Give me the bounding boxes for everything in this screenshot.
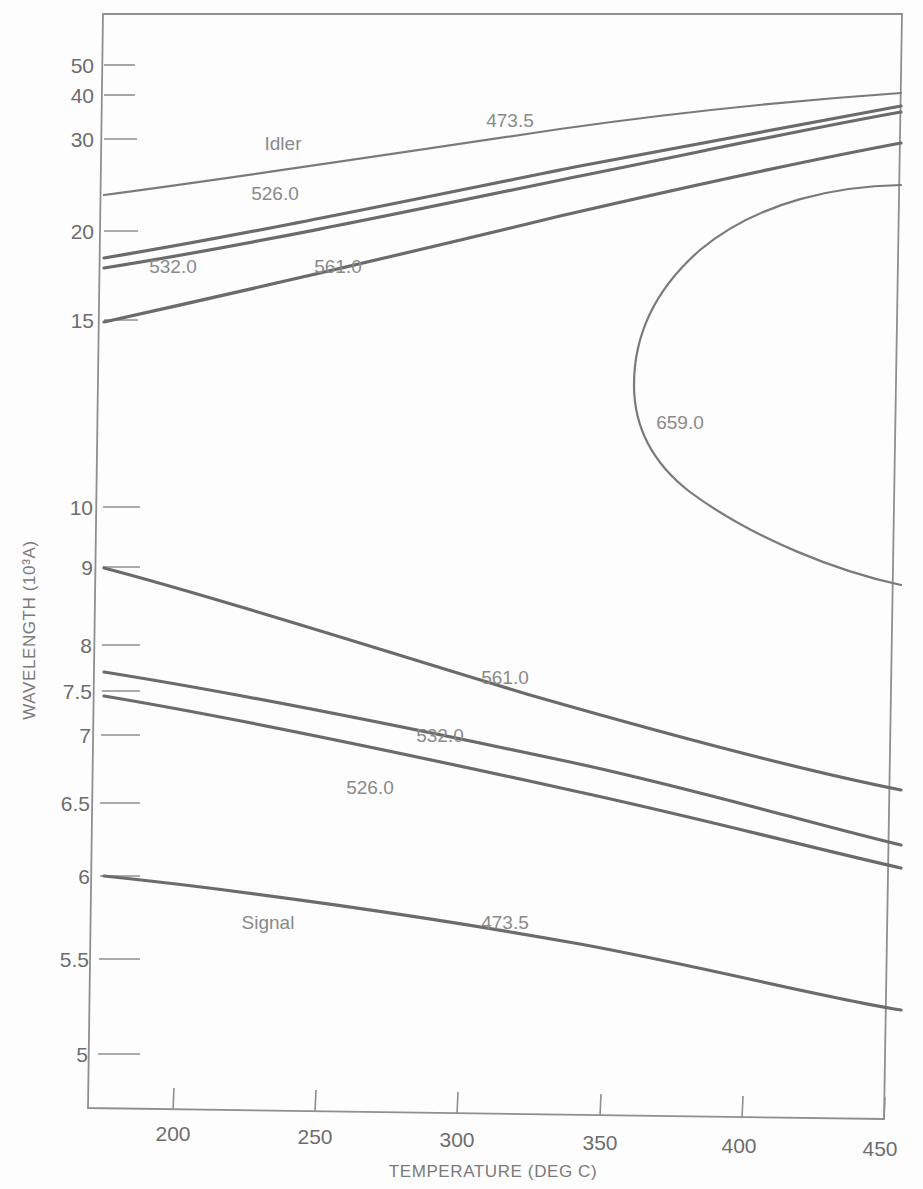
x-axis-title: TEMPERATURE (DEG C) <box>389 1162 597 1181</box>
y-axis-title: WAVELENGTH (10³A) <box>20 540 39 719</box>
curve-label-526-0-signal: 526.0 <box>346 777 394 798</box>
curve-signal-532-0 <box>104 672 901 845</box>
curve-label-signal-branch: Signal <box>242 912 295 933</box>
wavelength-temperature-chart: 50 40 30 20 15 10 9 8 7.5 7 6.5 6 5.5 5 … <box>0 0 923 1189</box>
curve-659-0 <box>634 185 901 585</box>
curve-label-561-0-signal: 561.0 <box>481 667 529 688</box>
x-tick-label: 200 <box>155 1122 190 1145</box>
curve-label-532-0-idler: 532.0 <box>149 256 197 277</box>
curve-label-473-5-idler: 473.5 <box>486 110 534 131</box>
curve-signal-526-0 <box>104 696 901 868</box>
curve-label-659-0: 659.0 <box>656 412 704 433</box>
x-tick-label: 350 <box>582 1131 617 1154</box>
signal-curves <box>104 568 901 1010</box>
y-tick-label: 50 <box>71 54 94 77</box>
y-axis-ticks <box>98 65 140 1054</box>
y-tick-label: 30 <box>71 128 94 151</box>
x-tick-label: 300 <box>439 1128 474 1151</box>
curve-idler-561-0 <box>104 143 901 322</box>
y-tick-label: 40 <box>71 84 94 107</box>
y-tick-label: 7 <box>79 724 91 747</box>
curve-annotations: 473.5 Idler 526.0 532.0 561.0 659.0 561.… <box>149 110 704 933</box>
x-tick-label: 450 <box>862 1137 897 1160</box>
curve-659-0-upper <box>634 185 901 385</box>
curve-idler-532-0 <box>104 112 901 268</box>
y-axis-tick-labels: 50 40 30 20 15 10 9 8 7.5 7 6.5 6 5.5 5 <box>60 54 94 1066</box>
x-axis-tick-labels: 200 250 300 350 400 450 <box>155 1122 897 1160</box>
x-tick-label: 400 <box>721 1134 756 1157</box>
y-tick-label: 5.5 <box>60 948 89 971</box>
y-tick-label: 9 <box>81 556 93 579</box>
curve-label-idler-branch: Idler <box>265 133 303 154</box>
x-tick-label: 250 <box>297 1125 332 1148</box>
curve-label-526-0-idler: 526.0 <box>251 183 299 204</box>
curve-label-532-0-signal: 532.0 <box>416 725 464 746</box>
y-tick-label: 6 <box>78 865 90 888</box>
y-tick-label: 7.5 <box>63 680 92 703</box>
y-tick-label: 15 <box>71 309 94 332</box>
y-tick-label: 6.5 <box>61 792 90 815</box>
y-tick-label: 10 <box>70 496 93 519</box>
y-tick-label: 8 <box>80 634 92 657</box>
y-tick-label: 5 <box>76 1043 88 1066</box>
curve-label-561-0-idler: 561.0 <box>314 256 362 277</box>
y-tick-label: 20 <box>71 220 94 243</box>
chart-page: 50 40 30 20 15 10 9 8 7.5 7 6.5 6 5.5 5 … <box>0 0 923 1189</box>
curve-idler-473-5 <box>104 93 901 195</box>
curve-label-473-5-signal: 473.5 <box>481 912 529 933</box>
curve-signal-473-5 <box>104 876 901 1010</box>
